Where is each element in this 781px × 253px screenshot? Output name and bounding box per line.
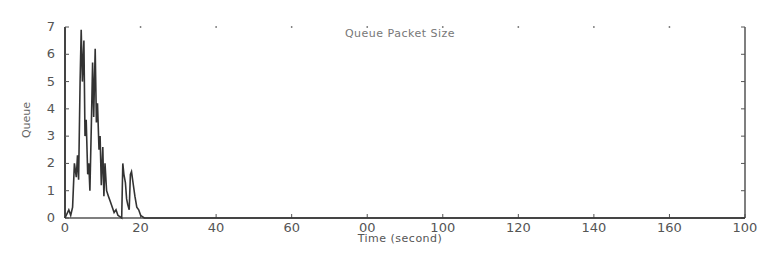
x-tick-label: 140 bbox=[581, 220, 606, 235]
chart-title: Queue Packet Size bbox=[345, 27, 455, 40]
x-tick-label: 40 bbox=[208, 220, 225, 235]
queue-packet-size-chart: 02040600010012014016010001234567 Queue P… bbox=[0, 0, 781, 253]
top-tick-mark bbox=[215, 26, 217, 28]
x-tick-label: 100 bbox=[733, 220, 758, 235]
y-tick-label: 3 bbox=[47, 128, 55, 143]
y-tick-label: 5 bbox=[47, 74, 55, 89]
y-tick-label: 7 bbox=[47, 19, 55, 34]
y-tick-label: 1 bbox=[47, 183, 55, 198]
x-tick-label: 120 bbox=[506, 220, 531, 235]
x-tick-label: 20 bbox=[132, 220, 149, 235]
top-tick-mark bbox=[140, 26, 142, 28]
plot-area: 02040600010012014016010001234567 bbox=[47, 19, 758, 235]
y-tick-label: 6 bbox=[47, 46, 55, 61]
top-tick-mark bbox=[593, 26, 595, 28]
y-tick-label: 4 bbox=[47, 101, 55, 116]
x-axis-label: Time (second) bbox=[357, 232, 443, 245]
data-series-line bbox=[65, 30, 745, 218]
x-tick-label: 160 bbox=[657, 220, 682, 235]
y-tick-label: 2 bbox=[47, 155, 55, 170]
x-tick-label: 60 bbox=[283, 220, 300, 235]
y-axis-label: Queue bbox=[20, 102, 33, 138]
x-tick-label: 0 bbox=[61, 220, 69, 235]
y-tick-label: 0 bbox=[47, 210, 55, 225]
top-tick-mark bbox=[291, 26, 293, 28]
top-tick-mark bbox=[669, 26, 671, 28]
top-tick-mark bbox=[517, 26, 519, 28]
